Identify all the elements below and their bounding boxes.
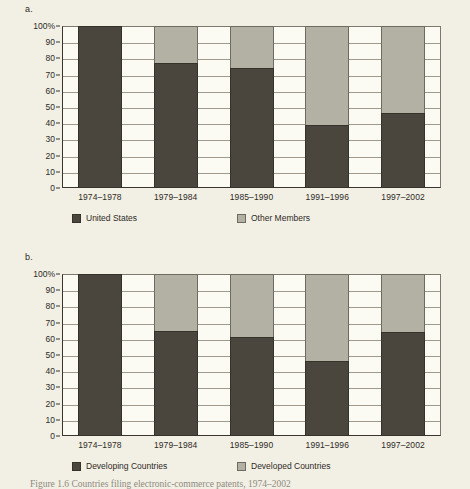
x-tick-label: 1997–2002 (365, 440, 441, 451)
legend-swatch-icon (237, 462, 246, 471)
y-tick-label: 80 (46, 54, 55, 63)
y-tick-mark (56, 322, 60, 323)
x-tick-label: 1979–1984 (138, 192, 214, 203)
y-tick-label: 70 (46, 318, 55, 327)
stacked-bar (154, 26, 198, 188)
y-tick-mark (56, 42, 60, 43)
y-tick-label: 10 (46, 168, 55, 177)
y-tick-mark (56, 58, 60, 59)
plot-area-b (62, 274, 441, 436)
x-tick-label: 1974–1978 (62, 192, 138, 203)
bar-segment-lower (230, 68, 274, 188)
x-tick-label: 1985–1990 (214, 192, 290, 203)
y-tick-mark (56, 306, 60, 307)
stacked-bar (381, 26, 425, 188)
y-tick-mark (56, 419, 60, 420)
y-tick-mark (56, 355, 60, 356)
y-tick-label: 40 (46, 367, 55, 376)
plot-area-a (62, 26, 441, 188)
bar-segment-lower (78, 26, 122, 188)
stacked-bar (154, 274, 198, 436)
x-tick-label: 1997–2002 (365, 192, 441, 203)
y-tick-label: 50 (46, 103, 55, 112)
y-tick-label: 50 (46, 351, 55, 360)
y-tick-mark (56, 123, 60, 124)
y-tick-label: 0 (50, 432, 55, 441)
bar-segment-upper (154, 274, 198, 331)
y-tick-mark (56, 155, 60, 156)
y-axis-b: 0102030405060708090100% (0, 274, 60, 436)
bar-segment-lower (381, 332, 425, 436)
legend-label: Other Members (251, 213, 310, 223)
stacked-bar (305, 274, 349, 436)
y-tick-mark (56, 26, 60, 27)
x-axis-b: 1974–19781979–19841985–19901991–19961997… (62, 440, 441, 454)
x-axis-a: 1974–19781979–19841985–19901991–19961997… (62, 192, 441, 206)
bar-segment-upper (230, 26, 274, 68)
y-tick-mark (56, 403, 60, 404)
legend-swatch-icon (72, 214, 81, 223)
bar-segment-upper (305, 274, 349, 361)
x-tick-label: 1979–1984 (138, 440, 214, 451)
bar-segment-lower (230, 337, 274, 436)
y-tick-label: 100% (33, 22, 55, 31)
y-tick-label: 30 (46, 135, 55, 144)
stacked-bar (305, 26, 349, 188)
bar-segment-lower (305, 361, 349, 436)
y-tick-label: 60 (46, 87, 55, 96)
x-tick-label: 1991–1996 (289, 192, 365, 203)
y-tick-mark (56, 188, 60, 189)
y-tick-mark (56, 387, 60, 388)
bar-segment-upper (305, 26, 349, 125)
stacked-bar (381, 274, 425, 436)
bars-b (62, 274, 441, 436)
y-tick-mark (56, 371, 60, 372)
legend-swatch-icon (237, 214, 246, 223)
legend-label: Developed Countries (251, 461, 330, 471)
x-tick-label: 1974–1978 (62, 440, 138, 451)
y-tick-mark (56, 338, 60, 339)
y-tick-mark (56, 171, 60, 172)
y-axis-a: 0102030405060708090100% (0, 26, 60, 188)
y-tick-mark (56, 436, 60, 437)
y-tick-label: 90 (46, 38, 55, 47)
panel-letter-b: b. (25, 252, 33, 262)
stacked-bar (230, 26, 274, 188)
y-tick-label: 60 (46, 335, 55, 344)
bars-a (62, 26, 441, 188)
y-tick-mark (56, 139, 60, 140)
stacked-bar (230, 274, 274, 436)
legend-item: United States (72, 213, 137, 223)
y-tick-label: 0 (50, 184, 55, 193)
bar-segment-upper (381, 26, 425, 113)
legend-label: Developing Countries (86, 461, 167, 471)
y-tick-label: 30 (46, 383, 55, 392)
legend-a: United StatesOther Members (62, 213, 441, 227)
panel-letter-a: a. (25, 4, 33, 14)
bar-segment-upper (230, 274, 274, 337)
legend-swatch-icon (72, 462, 81, 471)
y-tick-mark (56, 290, 60, 291)
y-tick-mark (56, 107, 60, 108)
y-tick-mark (56, 274, 60, 275)
bar-segment-lower (154, 63, 198, 188)
legend-item: Developed Countries (237, 461, 330, 471)
y-tick-label: 10 (46, 416, 55, 425)
bar-segment-upper (154, 26, 198, 63)
legend-b: Developing CountriesDeveloped Countries (62, 461, 441, 475)
stacked-bar (78, 26, 122, 188)
bar-segment-lower (78, 274, 122, 436)
bar-segment-lower (381, 113, 425, 188)
y-tick-label: 90 (46, 286, 55, 295)
bar-segment-upper (381, 274, 425, 332)
y-tick-label: 80 (46, 302, 55, 311)
y-tick-label: 20 (46, 151, 55, 160)
y-tick-mark (56, 90, 60, 91)
figure-caption: Figure 1.6 Countries filing electronic-c… (30, 479, 460, 489)
y-tick-label: 20 (46, 399, 55, 408)
y-tick-mark (56, 74, 60, 75)
legend-item: Developing Countries (72, 461, 167, 471)
x-tick-label: 1991–1996 (289, 440, 365, 451)
y-tick-label: 70 (46, 70, 55, 79)
y-tick-label: 100% (33, 270, 55, 279)
